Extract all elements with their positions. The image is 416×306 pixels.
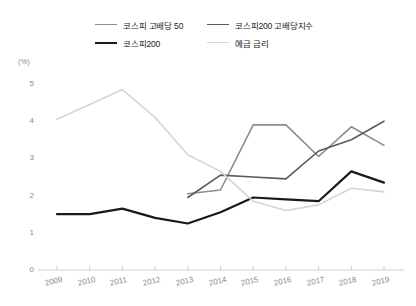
plot-svg — [0, 0, 416, 306]
series-line-코스피200 — [57, 171, 384, 223]
y-axis-tick-label: 2 — [18, 191, 34, 200]
y-axis-tick-label: 3 — [18, 153, 34, 162]
series-line-예금-금리 — [57, 90, 384, 211]
dividend-yield-line-chart: 코스피 고배당 50 코스피200 고배당지수 코스피200 예금 금리 (%)… — [0, 0, 416, 306]
y-axis-tick-label: 4 — [18, 116, 34, 125]
plot-area — [0, 0, 416, 306]
axis-lines — [38, 266, 404, 271]
y-axis-tick-label: 1 — [18, 228, 34, 237]
series-line-코스피200-고배당지수 — [188, 121, 384, 197]
series-layer — [57, 90, 384, 224]
y-axis-tick-label: 0 — [18, 265, 34, 274]
y-axis-tick-label: 5 — [18, 79, 34, 88]
series-line-코스피-고배당-50 — [188, 125, 384, 194]
